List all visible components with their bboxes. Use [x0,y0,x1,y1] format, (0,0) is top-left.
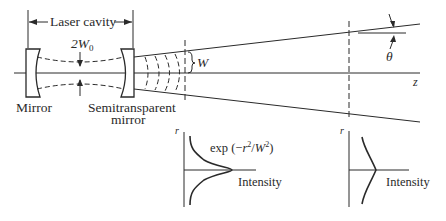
profile-far-r-label: r [340,125,344,136]
axis-z-label: z [412,75,418,89]
mirror-left-label: Mirror [16,100,52,115]
profile-near-r-label: r [175,125,179,136]
intensity-profile-near: r exp (−r2/W2) Intensity [175,125,282,207]
width-label: W [197,55,210,70]
mirror-right-label-2: mirror [111,112,146,127]
laser-cavity-label: Laser cavity [50,14,117,29]
arrow-right-icon [124,19,132,25]
arrow-down-icon [77,60,83,67]
laser-beam-diagram: Laser cavity z Mirror Semitransparent mi… [0,0,446,221]
arrow-left-icon [29,19,37,25]
intensity-profile-far: r Intensity [340,125,430,207]
arrow-up-icon [390,35,396,42]
arrow-up-icon [77,79,83,86]
output-beam-top [134,24,420,57]
beam-waist-marker: 2W0 [71,36,94,96]
profile-near-intensity-label: Intensity [238,175,282,189]
waist-label: 2W0 [71,36,94,53]
profile-far-intensity-label: Intensity [386,175,430,189]
width-brace [188,52,195,73]
output-beam-bottom [134,89,420,122]
theta-label: θ [386,49,393,64]
gaussian-formula: exp (−r2/W2) [210,140,273,155]
divergence-angle-marker: θ [358,14,406,64]
